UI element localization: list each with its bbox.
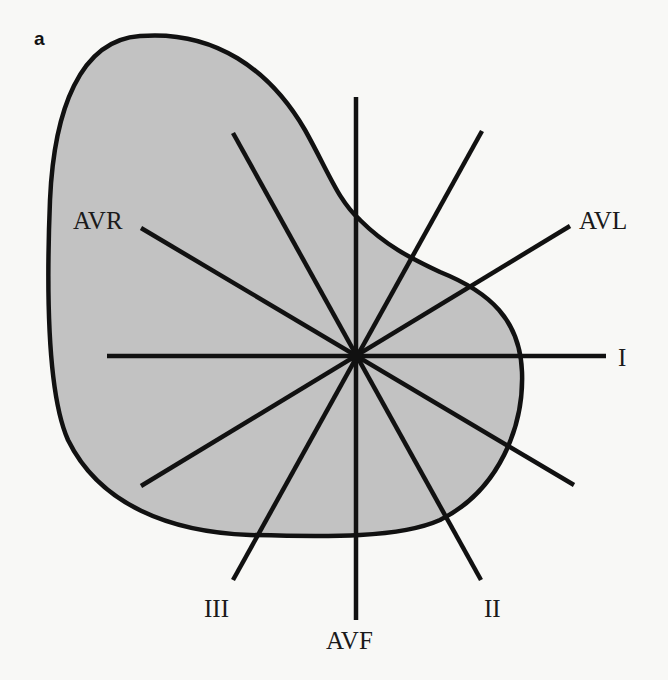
lead-label-iii: III [204,596,229,621]
panel-label: a [34,28,45,50]
lead-label-ii: II [484,596,501,621]
heart-silhouette [48,35,522,536]
axis-center-dot [349,349,363,363]
lead-label-i: I [618,345,626,370]
lead-label-avr: AVR [73,208,123,233]
lead-label-avl: AVL [579,208,627,233]
lead-label-avf: AVF [326,628,373,653]
hexaxial-reference-diagram [0,0,668,680]
